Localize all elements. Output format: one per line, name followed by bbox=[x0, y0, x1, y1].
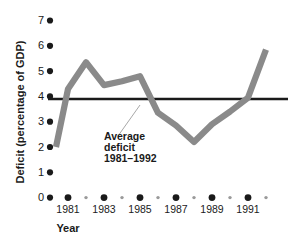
y-axis-title: Deficit (percentage of GDP) bbox=[14, 40, 26, 183]
x-tick-dot-1981 bbox=[65, 194, 72, 201]
y-tick-dot-2 bbox=[47, 144, 53, 150]
annotation-line-3: 1981–1992 bbox=[104, 152, 157, 164]
y-tick-label-1: 1 bbox=[38, 166, 44, 178]
y-tick-label-2: 2 bbox=[38, 141, 44, 153]
x-tick-label-1983: 1983 bbox=[92, 203, 116, 215]
chart-container: Deficit (percentage of GDP) 7 6 5 4 3 2 … bbox=[0, 0, 300, 244]
x-tick-dot-1987 bbox=[173, 194, 180, 201]
y-tick-label-5: 5 bbox=[38, 65, 44, 77]
x-tick-label-1991: 1991 bbox=[236, 203, 260, 215]
y-tick-dot-5 bbox=[47, 68, 53, 74]
x-tick-dot-1989 bbox=[209, 194, 216, 201]
x-tick-label-1985: 1985 bbox=[128, 203, 152, 215]
x-axis-ticks bbox=[65, 194, 268, 201]
x-tick-label-1981: 1981 bbox=[56, 203, 80, 215]
x-tick-dot-1983 bbox=[101, 194, 108, 201]
x-tick-dot-1992 bbox=[264, 196, 267, 199]
y-tick-dot-3 bbox=[47, 119, 53, 125]
x-tick-dot-1985 bbox=[137, 194, 144, 201]
y-tick-dot-6 bbox=[47, 43, 53, 49]
y-tick-dot-7 bbox=[47, 17, 53, 23]
x-tick-dot-1982 bbox=[84, 196, 87, 199]
y-tick-label-3: 3 bbox=[38, 115, 44, 127]
y-tick-label-0: 0 bbox=[38, 191, 44, 203]
x-tick-dot-1986 bbox=[156, 196, 159, 199]
y-tick-dot-1 bbox=[47, 169, 53, 175]
x-axis-tick-labels: 1981 1983 1985 1987 1989 1991 bbox=[56, 203, 260, 215]
y-tick-label-4: 4 bbox=[38, 90, 44, 102]
deficit-line-chart: Deficit (percentage of GDP) 7 6 5 4 3 2 … bbox=[0, 0, 300, 244]
y-axis-ticks: 7 6 5 4 3 2 1 0 bbox=[38, 14, 53, 203]
x-tick-label-1989: 1989 bbox=[200, 203, 224, 215]
y-tick-label-6: 6 bbox=[38, 39, 44, 51]
x-tick-dot-1988 bbox=[192, 196, 195, 199]
x-tick-dot-1984 bbox=[120, 196, 123, 199]
y-tick-label-7: 7 bbox=[38, 14, 44, 26]
y-tick-dot-0 bbox=[47, 195, 53, 201]
x-tick-dot-1991 bbox=[245, 194, 252, 201]
x-tick-dot-1990 bbox=[228, 196, 231, 199]
average-deficit-annotation: Average deficit 1981–1992 bbox=[104, 130, 157, 164]
x-tick-label-1987: 1987 bbox=[164, 203, 188, 215]
x-axis-title: Year bbox=[56, 222, 80, 234]
